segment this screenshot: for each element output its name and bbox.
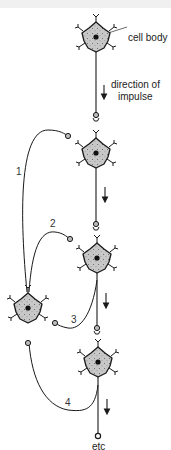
neuron-5	[77, 339, 119, 377]
direction-label-line1: direction of	[111, 79, 160, 90]
pathway-3-label: 3	[71, 314, 77, 325]
neuron-2	[75, 130, 117, 168]
direction-label-line2: impulse	[118, 91, 152, 102]
cell-body-label: cell body	[128, 32, 167, 43]
neuron-1	[75, 14, 117, 52]
pathway-4-label: 4	[65, 397, 71, 408]
pathway-1-label: 1	[16, 166, 22, 177]
neuron-diagram	[0, 0, 171, 450]
etc-label: etc	[92, 441, 105, 450]
neuron-4	[7, 285, 49, 323]
neuron-3	[76, 235, 118, 273]
pathway-2-label: 2	[50, 218, 56, 229]
